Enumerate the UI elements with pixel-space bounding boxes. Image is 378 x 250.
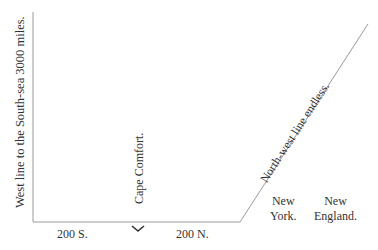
north-distance-label: 200 N. — [176, 228, 209, 240]
new-england-line-1: New — [314, 194, 357, 209]
new-york-label: New York. — [270, 194, 296, 224]
west-line-label: West line to the South-sea 3000 miles. — [14, 16, 27, 208]
new-york-line-1: New — [270, 194, 296, 209]
new-england-label: New England. — [314, 194, 357, 224]
new-york-line-2: York. — [270, 209, 296, 224]
cape-comfort-label: Cape Comfort. — [133, 133, 145, 204]
new-england-line-2: England. — [314, 209, 357, 224]
south-distance-label: 200 S. — [57, 228, 88, 240]
chevron-down-icon — [132, 226, 144, 231]
